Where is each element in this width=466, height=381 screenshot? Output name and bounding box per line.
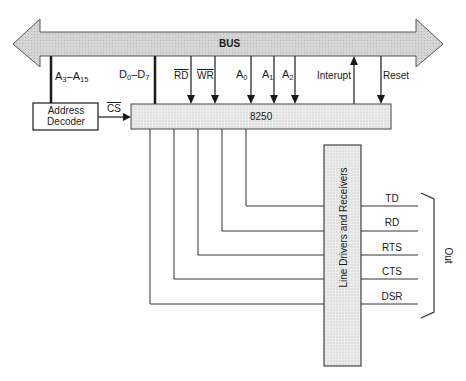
address-decoder-label: AddressDecoder: [46, 105, 86, 127]
addr-high-label: A3–A15: [55, 70, 88, 86]
line-drivers-label: Line Drivers and Receivers: [338, 168, 349, 288]
out-brace: [421, 193, 434, 318]
bus-label: BUS: [219, 38, 240, 50]
signal-rts: RTS: [372, 242, 412, 253]
reset-label: Reset: [383, 70, 409, 82]
signal-dsr: DSR: [372, 291, 412, 302]
wr-label: WR: [197, 70, 214, 82]
signal-rd: RD: [372, 217, 412, 228]
cs-label: CS: [107, 103, 121, 115]
signal-cts: CTS: [372, 266, 412, 277]
a0-label: A0: [236, 68, 248, 84]
a2-label: A2: [282, 68, 294, 84]
rd-label: RD: [174, 70, 188, 82]
diagram-canvas: [0, 0, 466, 381]
a1-label: A1: [262, 68, 274, 84]
interrupt-label: Interupt: [317, 70, 351, 82]
out-label: Out: [443, 244, 454, 268]
data-label: D0–D7: [119, 68, 149, 84]
chip-8250-label: 8250: [250, 111, 272, 123]
signal-td: TD: [372, 193, 412, 204]
